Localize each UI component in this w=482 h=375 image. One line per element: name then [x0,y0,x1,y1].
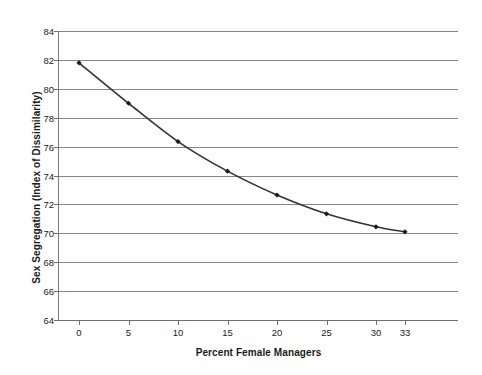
y-axis-tick-label: 68 [26,257,54,268]
x-axis-tick-label: 10 [158,327,198,338]
y-axis-tick-label: 72 [26,199,54,210]
y-axis-tick-label: 78 [26,112,54,123]
x-axis-tick-label: 0 [59,327,99,338]
x-axis-title: Percent Female Managers [59,347,458,358]
gridline [59,147,458,148]
y-axis-tick-mark [54,147,58,148]
y-axis-tick-mark [54,89,58,90]
y-axis-tick-mark [54,233,58,234]
y-axis-tick-mark [54,176,58,177]
x-axis-tick-mark [327,321,328,325]
gridline [59,31,458,32]
x-axis-tick-mark [376,321,377,325]
y-axis-tick-label: 66 [26,286,54,297]
gridline [59,60,458,61]
y-axis-tick-mark [54,60,58,61]
gridline [59,262,458,263]
y-axis-tick-mark [54,118,58,119]
line-chart: Sex Segregation (Index of Dissimilarity)… [0,0,482,375]
y-axis-tick-label: 82 [26,54,54,65]
y-axis-tick-mark [54,204,58,205]
y-axis-tick-label: 74 [26,170,54,181]
gridline [59,204,458,205]
x-axis-tick-label: 20 [257,327,297,338]
y-axis-tick-labels: 6466687072747678808284 [22,31,54,320]
y-axis-tick-label: 80 [26,83,54,94]
y-axis-tick-mark [54,320,58,321]
y-axis-tick-mark [54,262,58,263]
x-axis-tick-mark [228,321,229,325]
x-axis-tick-mark [178,321,179,325]
x-axis-tick-mark [277,321,278,325]
x-axis-tick-label: 25 [307,327,347,338]
x-axis-tick-label: 5 [109,327,149,338]
x-axis-tick-mark [79,321,80,325]
y-axis-tick-label: 70 [26,228,54,239]
x-axis-tick-mark [405,321,406,325]
x-axis-tick-label: 15 [208,327,248,338]
gridline [59,291,458,292]
y-axis-tick-label: 64 [26,315,54,326]
x-axis-tick-mark [129,321,130,325]
y-axis-tick-label: 84 [26,26,54,37]
gridline [59,118,458,119]
y-axis-tick-mark [54,31,58,32]
x-axis-line [59,320,458,321]
gridline [59,233,458,234]
x-axis-tick-label: 33 [385,327,425,338]
gridline [59,176,458,177]
y-axis-tick-mark [54,291,58,292]
plot-area [59,31,458,320]
gridline [59,89,458,90]
y-axis-tick-label: 76 [26,141,54,152]
